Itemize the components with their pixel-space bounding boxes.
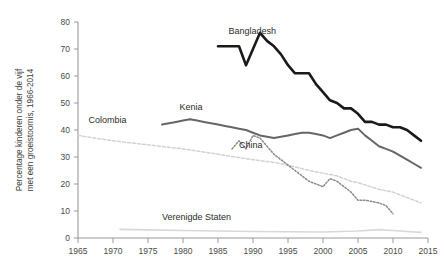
series-label-verenigde-staten: Verenigde Staten bbox=[162, 212, 231, 222]
x-tick-label: 1970 bbox=[104, 246, 123, 256]
x-tick-label: 2015 bbox=[419, 246, 438, 256]
y-tick-label: 40 bbox=[61, 125, 71, 135]
x-tick-label: 1975 bbox=[139, 246, 158, 256]
series-line-verenigde-staten bbox=[120, 229, 421, 232]
series-label-bangladesh: Bangladesh bbox=[229, 26, 277, 36]
series-label-china: China bbox=[239, 140, 263, 150]
y-tick-label: 0 bbox=[65, 233, 70, 243]
x-tick-label: 1980 bbox=[174, 246, 193, 256]
x-tick-label: 2000 bbox=[314, 246, 333, 256]
x-tick-label: 2005 bbox=[349, 246, 368, 256]
y-tick-label: 80 bbox=[61, 17, 71, 27]
x-tick-label: 1965 bbox=[69, 246, 88, 256]
y-tick-label: 70 bbox=[61, 44, 71, 54]
y-axis-title-line-1: Percentage kinderen onder de vijf bbox=[15, 68, 24, 191]
x-tick-label: 2010 bbox=[384, 246, 403, 256]
series-line-bangladesh bbox=[218, 33, 421, 141]
series-line-kenia bbox=[162, 119, 421, 168]
y-axis-title-line-2: met een groeistoornis, 1966-2014 bbox=[26, 68, 35, 191]
series-label-kenia: Kenia bbox=[180, 102, 203, 112]
y-tick-label: 50 bbox=[61, 98, 71, 108]
x-tick-label: 1995 bbox=[279, 246, 298, 256]
y-tick-label: 60 bbox=[61, 71, 71, 81]
line-chart: 0102030405060708019651970197519801985199… bbox=[0, 0, 446, 269]
y-tick-label: 30 bbox=[61, 152, 71, 162]
y-tick-label: 10 bbox=[61, 206, 71, 216]
series-label-colombia: Colombia bbox=[89, 115, 127, 125]
y-tick-label: 20 bbox=[61, 179, 71, 189]
x-tick-label: 1985 bbox=[209, 246, 228, 256]
x-tick-label: 1990 bbox=[244, 246, 263, 256]
chart-container: 0102030405060708019651970197519801985199… bbox=[0, 0, 446, 269]
